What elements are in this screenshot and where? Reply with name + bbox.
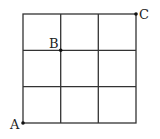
point-a-label: A <box>9 117 20 132</box>
point-b-dot <box>59 49 63 53</box>
point-a-dot <box>21 121 25 125</box>
grid-lines <box>23 14 136 123</box>
point-c-dot <box>134 12 138 16</box>
point-c-label: C <box>139 7 149 22</box>
grid-border <box>23 14 136 123</box>
point-b-label: B <box>49 36 59 51</box>
grid-diagram: A B C <box>0 0 160 139</box>
